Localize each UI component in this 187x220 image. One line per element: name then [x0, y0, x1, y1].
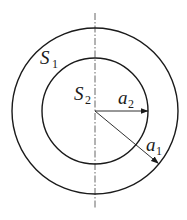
label-s2-sub: 2	[85, 93, 91, 107]
label-s2-main: S	[74, 83, 84, 104]
concentric-circles-diagram: S 1 S 2 a 2 a 1	[0, 0, 187, 220]
label-a2: a 2	[118, 87, 134, 111]
label-s1-main: S	[40, 47, 50, 68]
label-a2-sub: 2	[128, 97, 134, 111]
label-a1-main: a	[146, 134, 156, 155]
label-s2: S 2	[74, 83, 91, 107]
label-a2-main: a	[118, 87, 128, 108]
label-a1: a 1	[146, 134, 162, 158]
label-s1: S 1	[40, 47, 58, 71]
label-a1-sub: 1	[156, 144, 162, 158]
label-s1-sub: 1	[52, 57, 58, 71]
